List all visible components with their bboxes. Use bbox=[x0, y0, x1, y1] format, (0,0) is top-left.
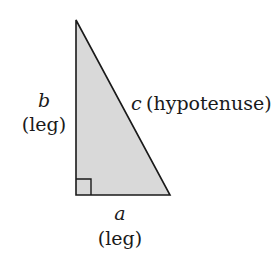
leg-a-variable: a bbox=[114, 202, 125, 224]
hypotenuse-description: (hypotenuse) bbox=[146, 92, 272, 114]
hypotenuse-variable: c bbox=[131, 92, 142, 114]
leg-a-description: (leg) bbox=[98, 227, 142, 249]
leg-b-description: (leg) bbox=[22, 113, 66, 135]
right-triangle-diagram: b (leg) c (hypotenuse) a (leg) bbox=[0, 0, 278, 257]
leg-b-variable: b bbox=[38, 89, 50, 111]
